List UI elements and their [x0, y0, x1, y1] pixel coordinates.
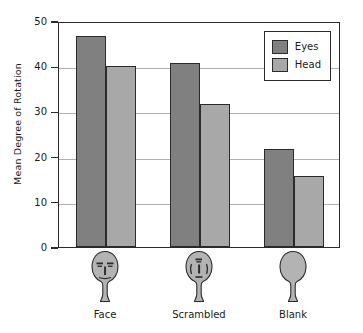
bar-blank-eyes[interactable] — [264, 149, 294, 247]
y-tick-label-10: 10 — [14, 198, 47, 208]
x-axis-categories: Face Scrambled — [58, 250, 340, 332]
legend-item-eyes[interactable]: Eyes — [272, 38, 321, 56]
y-tick-label-0: 0 — [14, 243, 47, 253]
x-category-label-face: Face — [58, 310, 152, 320]
y-tick-label-20: 20 — [14, 153, 47, 163]
y-axis-title: Mean Degree of Rotation — [10, 0, 26, 248]
y-tick-mark-40 — [51, 67, 58, 68]
y-tick-mark-50 — [51, 21, 58, 22]
legend[interactable]: Eyes Head — [264, 31, 331, 81]
y-tick-mark-20 — [51, 157, 58, 158]
y-tick-mark-0 — [51, 247, 58, 248]
bar-scrambled-head[interactable] — [200, 104, 230, 247]
face-pictogram — [58, 250, 152, 305]
y-tick-label-30: 30 — [14, 107, 47, 117]
bar-face-head[interactable] — [106, 66, 136, 247]
x-category-face: Face — [58, 250, 152, 320]
y-tick-label-40: 40 — [14, 62, 47, 72]
bar-chart-figure: Mean Degree of Rotation 01020304050 Eyes… — [0, 0, 363, 333]
bar-scrambled-eyes[interactable] — [170, 63, 200, 247]
x-category-label-scrambled: Scrambled — [152, 310, 246, 320]
bar-blank-head[interactable] — [294, 176, 324, 247]
x-category-blank: Blank — [246, 250, 340, 320]
legend-label-head: Head — [295, 60, 321, 70]
y-tick-mark-30 — [51, 112, 58, 113]
scrambled-face-pictogram — [152, 250, 246, 305]
y-tick-label-50: 50 — [14, 17, 47, 27]
legend-label-eyes: Eyes — [295, 42, 319, 52]
legend-swatch-head — [272, 58, 288, 72]
legend-swatch-eyes — [272, 40, 288, 54]
blank-head-pictogram-svg — [276, 250, 310, 303]
y-tick-mark-10 — [51, 202, 58, 203]
blank-head-pictogram — [246, 250, 340, 305]
x-category-scrambled: Scrambled — [152, 250, 246, 320]
bar-face-eyes[interactable] — [76, 36, 106, 247]
face-pictogram-svg — [88, 250, 122, 303]
scrambled-face-pictogram-svg — [182, 250, 216, 303]
x-category-label-blank: Blank — [246, 310, 340, 320]
legend-item-head[interactable]: Head — [272, 56, 321, 74]
plot-area: Eyes Head — [58, 22, 340, 248]
